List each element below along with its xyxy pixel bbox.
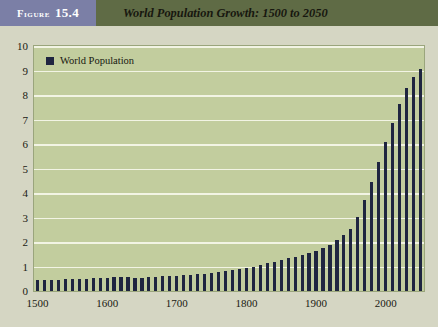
bar [377,162,380,291]
bar [419,69,422,291]
bar [43,280,46,291]
gridline [34,95,424,97]
bar [412,77,415,291]
bar [245,268,248,291]
bar [391,123,394,291]
bar [175,276,178,291]
legend-label: World Population [60,55,134,66]
bar [126,277,129,291]
bar [64,279,67,291]
bar [335,240,338,291]
bar [106,278,109,291]
bar [78,279,81,291]
chart-plot-frame: World Population [33,45,425,292]
bar [50,280,53,291]
x-axis-tick-label: 1900 [305,297,327,309]
gridline [34,169,424,171]
chart-legend: World Population [46,55,134,66]
bar [224,271,227,291]
bar [294,257,297,291]
y-axis-tick-label: 7 [2,114,28,126]
y-axis-tick-label: 8 [2,89,28,101]
bar [287,258,290,291]
figure-label-word: Figure [17,8,50,19]
x-axis-tick-label: 1800 [235,297,257,309]
bar [182,275,185,291]
gridline [34,71,424,73]
gridline [34,193,424,195]
gridline [34,144,424,146]
bar [57,280,60,292]
bar [370,182,373,291]
y-axis-tick-label: 6 [2,138,28,150]
y-axis-tick-label: 1 [2,261,28,273]
bar [217,272,220,291]
bar [112,277,115,291]
legend-swatch-icon [46,57,54,65]
bar [314,251,317,291]
bar [147,277,150,291]
bar [99,278,102,291]
y-axis-tick-label: 2 [2,236,28,248]
y-axis: 012345678910 [0,45,28,292]
bar [203,274,206,291]
x-axis: 150016001700180019002000 [33,297,425,313]
bar [189,275,192,291]
bar [301,255,304,291]
gridline [34,46,424,48]
bar [161,276,164,291]
bar [36,280,39,291]
figure-title: World Population Growth: 1500 to 2050 [96,0,438,26]
bar [140,278,143,291]
bar [196,274,199,291]
figure-number-tag: Figure 15.4 [0,0,96,26]
bar [273,262,276,291]
y-axis-tick-label: 5 [2,163,28,175]
x-axis-tick-label: 1700 [166,297,188,309]
bar [210,273,213,291]
bar [398,104,401,291]
figure-label-number: 15.4 [55,5,79,21]
bar [259,265,262,291]
x-axis-tick-label: 2000 [375,297,397,309]
y-axis-tick-label: 3 [2,212,28,224]
y-axis-tick-label: 0 [2,285,28,297]
bar [154,277,157,291]
bar [119,277,122,291]
bar [238,269,241,291]
bar [384,142,387,291]
bar [321,248,324,291]
y-axis-tick-label: 4 [2,187,28,199]
bar [280,260,283,291]
bar [71,279,74,291]
bar [405,88,408,291]
bar [231,270,234,291]
figure-header-band: Figure 15.4 World Population Growth: 150… [0,0,438,26]
gridline [34,120,424,122]
bar [168,276,171,291]
bar [252,267,255,292]
bar [342,235,345,291]
bar [266,263,269,291]
bar [307,253,310,291]
bar [92,278,95,291]
x-axis-tick-label: 1500 [26,297,48,309]
bar [85,279,88,291]
y-axis-tick-label: 9 [2,65,28,77]
y-axis-tick-label: 10 [2,40,28,52]
bar [328,245,331,291]
bar [356,217,359,291]
bar [363,200,366,291]
x-axis-tick-label: 1600 [96,297,118,309]
bar [133,278,136,291]
plot-area [34,46,424,291]
figure-container: Figure 15.4 World Population Growth: 150… [0,0,438,327]
bar [349,229,352,291]
